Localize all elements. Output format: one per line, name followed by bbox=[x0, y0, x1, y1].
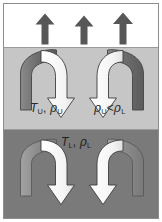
lower-density-subscript: L bbox=[87, 141, 91, 150]
upper-density-subscript: U bbox=[57, 107, 62, 116]
upper-temperature-symbol: T bbox=[30, 101, 38, 115]
lower-density-symbol: ρ bbox=[80, 135, 87, 149]
upper-fluid-layer bbox=[4, 47, 158, 130]
inequality-operator: < bbox=[107, 101, 114, 115]
diagram-frame: TU, ρU ρU<ρL TL, ρL bbox=[3, 3, 159, 219]
lower-temperature-symbol: T bbox=[61, 135, 69, 149]
lower-state-separator: , bbox=[73, 135, 80, 149]
upper-white-region bbox=[4, 4, 158, 47]
convection-diagram-figure: TU, ρU ρU<ρL TL, ρL bbox=[0, 0, 162, 222]
density-inequality-label: ρU<ρL bbox=[94, 102, 125, 115]
upper-layer-state-label: TU, ρU bbox=[30, 102, 63, 115]
inequality-right-subscript: L bbox=[121, 107, 125, 116]
upper-state-separator: , bbox=[43, 101, 50, 115]
lower-layer-state-label: TL, ρL bbox=[61, 136, 91, 149]
